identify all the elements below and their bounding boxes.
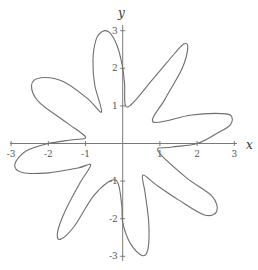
polar-curve-plot: -3-2-1123-3-2-1123 x y	[0, 0, 258, 270]
y-tick-label: -3	[109, 251, 118, 261]
x-tick-label: -1	[81, 149, 90, 159]
x-tick-label: 3	[231, 149, 237, 159]
y-tick-label: -2	[109, 214, 118, 224]
y-axis-label: y	[117, 6, 125, 20]
x-axis-label: x	[246, 138, 253, 152]
x-tick-label: 2	[194, 149, 200, 159]
x-tick-label: -2	[44, 149, 53, 159]
x-tick-label: -3	[7, 149, 16, 159]
y-tick-label: 1	[112, 101, 118, 111]
y-tick-label: 2	[112, 63, 118, 73]
y-tick-label: 3	[112, 26, 118, 36]
